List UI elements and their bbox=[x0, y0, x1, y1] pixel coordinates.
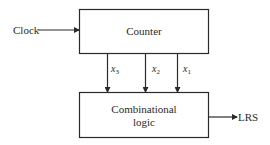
clock-label: Clock bbox=[13, 24, 39, 36]
x1-label: x1 bbox=[183, 64, 191, 77]
x2-label: x2 bbox=[152, 64, 160, 77]
combinational-logic-line-2: logic bbox=[80, 116, 208, 129]
counter-label: Counter bbox=[80, 25, 208, 38]
lrs-label: LRS bbox=[238, 111, 258, 123]
combinational-logic-label: Combinational logic bbox=[80, 103, 208, 129]
x3-label: x3 bbox=[111, 64, 119, 77]
combinational-logic-line-1: Combinational bbox=[80, 103, 208, 116]
